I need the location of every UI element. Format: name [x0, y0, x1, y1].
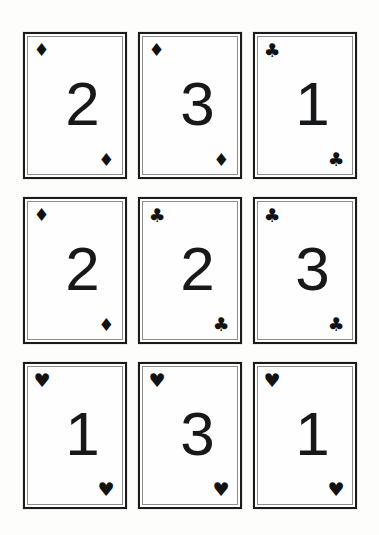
playing-card[interactable]: ♣2♣	[138, 197, 242, 344]
playing-card[interactable]: ♣3♣	[253, 197, 357, 344]
card-face: ♣1♣	[258, 37, 352, 174]
card-rank-label: 1	[258, 72, 352, 134]
card-face: ♦2♦	[28, 37, 122, 174]
heart-suit-icon: ♥	[327, 480, 344, 499]
card-grid: ♦2♦♦3♦♣1♣♦2♦♣2♣♣3♣♥1♥♥3♥♥1♥	[0, 0, 379, 535]
club-suit-icon: ♣	[212, 315, 229, 334]
card-border-inner: ♣3♣	[257, 201, 353, 340]
diamond-suit-icon: ♦	[149, 41, 165, 59]
playing-card[interactable]: ♣1♣	[253, 32, 357, 179]
card-rank-label: 3	[258, 237, 352, 299]
club-suit-icon: ♣	[327, 150, 344, 169]
club-suit-icon: ♣	[264, 206, 281, 225]
heart-suit-icon: ♥	[264, 371, 281, 390]
card-face: ♦2♦	[28, 202, 122, 339]
heart-suit-icon: ♥	[212, 480, 229, 499]
card-face: ♥1♥	[28, 367, 122, 504]
card-border-inner: ♦3♦	[142, 36, 238, 175]
diamond-suit-icon: ♦	[34, 41, 50, 59]
card-rank-label: 2	[28, 237, 122, 299]
diamond-suit-icon: ♦	[98, 316, 114, 334]
card-face: ♣2♣	[143, 202, 237, 339]
playing-card[interactable]: ♦3♦	[138, 32, 242, 179]
diamond-suit-icon: ♦	[213, 151, 229, 169]
card-rank-label: 3	[143, 72, 237, 134]
card-rank-label: 3	[143, 402, 237, 464]
card-face: ♥1♥	[258, 367, 352, 504]
card-face: ♣3♣	[258, 202, 352, 339]
card-border-inner: ♥3♥	[142, 366, 238, 505]
card-border-inner: ♦2♦	[27, 201, 123, 340]
card-rank-label: 1	[28, 402, 122, 464]
heart-suit-icon: ♥	[149, 371, 166, 390]
card-face: ♦3♦	[143, 37, 237, 174]
card-border-inner: ♦2♦	[27, 36, 123, 175]
heart-suit-icon: ♥	[34, 371, 51, 390]
playing-card[interactable]: ♦2♦	[23, 197, 127, 344]
diamond-suit-icon: ♦	[34, 206, 50, 224]
club-suit-icon: ♣	[149, 206, 166, 225]
card-border-inner: ♥1♥	[27, 366, 123, 505]
heart-suit-icon: ♥	[97, 480, 114, 499]
card-border-inner: ♥1♥	[257, 366, 353, 505]
club-suit-icon: ♣	[327, 315, 344, 334]
playing-card[interactable]: ♥1♥	[253, 362, 357, 509]
playing-card[interactable]: ♥1♥	[23, 362, 127, 509]
card-rank-label: 2	[143, 237, 237, 299]
diamond-suit-icon: ♦	[98, 151, 114, 169]
playing-card[interactable]: ♦2♦	[23, 32, 127, 179]
card-border-inner: ♣2♣	[142, 201, 238, 340]
card-rank-label: 2	[28, 72, 122, 134]
card-border-inner: ♣1♣	[257, 36, 353, 175]
playing-card[interactable]: ♥3♥	[138, 362, 242, 509]
card-rank-label: 1	[258, 402, 352, 464]
card-face: ♥3♥	[143, 367, 237, 504]
club-suit-icon: ♣	[264, 41, 281, 60]
